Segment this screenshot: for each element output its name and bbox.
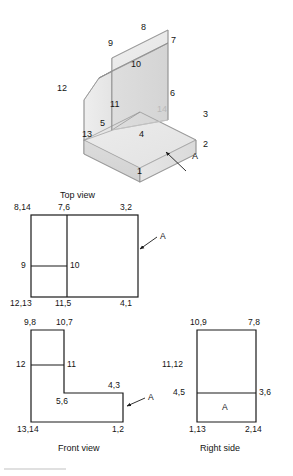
- front-view-label-11: 11: [67, 360, 76, 369]
- front-view-outline: [31, 330, 123, 422]
- iso-label-6: 6: [170, 89, 175, 98]
- iso-label-4: 4: [139, 130, 144, 139]
- top-view-callout-leader: [140, 237, 157, 249]
- top-view-label-11-5: 11,5: [55, 299, 71, 308]
- front-view-label-12: 12: [16, 360, 26, 369]
- right-side-view-title: Right side: [200, 443, 240, 453]
- top-view-label-9: 9: [21, 261, 26, 270]
- right-view-label-10-9: 10,9: [190, 318, 207, 327]
- iso-surface-callout-a: A: [192, 152, 198, 161]
- front-view-callout-leader: [127, 398, 145, 406]
- right-view-label-7-8: 7,8: [248, 318, 260, 327]
- top-view-title: Top view: [60, 190, 95, 200]
- iso-label-13: 13: [82, 130, 92, 139]
- iso-label-8: 8: [141, 23, 146, 32]
- top-view-label-8-14: 8,14: [14, 203, 31, 212]
- top-view-label-12-13: 12,13: [10, 299, 32, 308]
- iso-label-10: 10: [131, 60, 141, 69]
- top-view-label-3-2: 3,2: [120, 203, 132, 212]
- top-view-label-10: 10: [70, 261, 80, 270]
- iso-label-14: 14: [157, 105, 167, 114]
- right-view-label-1-13: 1,13: [189, 425, 206, 434]
- front-view-label-5-6: 5,6: [56, 397, 68, 406]
- right-view-label-11-12: 11,12: [162, 360, 183, 369]
- iso-label-5: 5: [100, 119, 105, 128]
- right-view-surface-a: A: [222, 403, 228, 412]
- top-view-label-7-6: 7,6: [58, 203, 70, 212]
- right-view-label-2-14: 2,14: [245, 425, 262, 434]
- top-view-outline: [31, 215, 138, 297]
- drawing-canvas: 8 7 9 10 12 11 6 14 3 5 13 4 2 1 A Top v…: [0, 0, 293, 476]
- iso-label-12: 12: [57, 84, 67, 93]
- iso-label-2: 2: [203, 140, 208, 149]
- front-view-callout-a: A: [148, 393, 154, 402]
- drawing-vector-layer: [0, 0, 293, 476]
- right-view-label-3-6: 3,6: [259, 388, 271, 397]
- top-view-label-4-1: 4,1: [120, 299, 132, 308]
- iso-label-1: 1: [137, 167, 142, 176]
- front-view-title: Front view: [58, 443, 100, 453]
- isometric-solid: [84, 30, 196, 182]
- front-view-label-10-7: 10,7: [56, 318, 73, 327]
- front-view-label-9-8: 9,8: [24, 318, 36, 327]
- top-view-callout-a: A: [160, 232, 166, 241]
- right-view-label-4-5: 4,5: [173, 388, 185, 397]
- front-view-label-1-2: 1,2: [112, 425, 124, 434]
- iso-label-3: 3: [203, 110, 208, 119]
- iso-label-11: 11: [110, 100, 120, 109]
- iso-label-9: 9: [108, 39, 113, 48]
- iso-label-7: 7: [171, 36, 176, 45]
- front-view-label-13-14: 13,14: [17, 425, 39, 434]
- front-view-label-4-3: 4,3: [108, 381, 120, 390]
